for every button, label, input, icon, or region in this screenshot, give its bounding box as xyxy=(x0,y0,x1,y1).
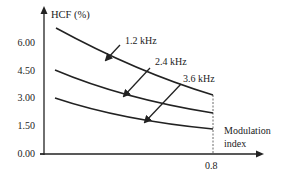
y-tick-4.5: 4.50 xyxy=(5,66,35,76)
arrow-1.2khz-icon xyxy=(106,45,120,60)
y-tick-6: 6.00 xyxy=(5,38,35,48)
y-tick-0: 0.00 xyxy=(5,149,35,159)
curve-label-2.4khz: 2.4 kHz xyxy=(155,57,187,67)
x-tick-0.8: 0.8 xyxy=(205,161,218,171)
arrow-3.6khz-icon xyxy=(145,84,181,122)
y-tick-3: 3.00 xyxy=(5,93,35,103)
hcf-chart: HCF (%) 6.00 4.50 3.00 1.50 0.00 0.8 Mod… xyxy=(0,0,288,178)
curve-label-1.2khz: 1.2 kHz xyxy=(125,36,157,46)
y-tick-1.5: 1.50 xyxy=(5,121,35,131)
y-axis-arrow-icon xyxy=(41,6,48,14)
x-axis-arrow-icon xyxy=(256,151,264,158)
chart-plot xyxy=(0,0,288,178)
x-axis-label-line1: Modulation xyxy=(224,126,271,136)
x-axis-label-line2: index xyxy=(224,139,246,149)
curve-3.6khz xyxy=(55,98,213,129)
curve-label-3.6khz: 3.6 kHz xyxy=(183,74,215,84)
y-axis-label: HCF (%) xyxy=(51,10,90,21)
arrow-2.4khz-icon xyxy=(124,68,150,96)
